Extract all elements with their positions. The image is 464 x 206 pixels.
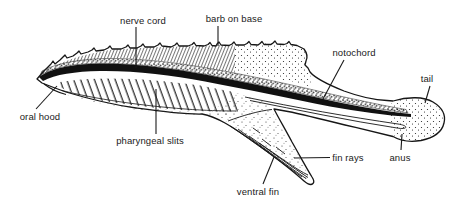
ventral-fin-stipple xyxy=(216,109,309,182)
leader-ventral-fin xyxy=(263,157,274,184)
label-fin-rays: fin rays xyxy=(332,152,364,163)
label-nerve-cord: nerve cord xyxy=(120,15,166,26)
leader-fin-rays xyxy=(294,158,330,159)
leader-oral-hood xyxy=(36,86,57,109)
label-pharyngeal-slits: pharyngeal slits xyxy=(116,135,184,146)
lancelet-diagram-svg: nerve cord barb on base notochord tail o… xyxy=(0,0,464,206)
label-notochord: notochord xyxy=(332,47,375,58)
label-anus: anus xyxy=(389,152,410,163)
label-oral-hood: oral hood xyxy=(20,111,61,122)
label-barb-on-base: barb on base xyxy=(206,13,263,24)
anatomy-diagram-figure: nerve cord barb on base notochord tail o… xyxy=(0,0,464,206)
label-ventral-fin: ventral fin xyxy=(237,186,279,197)
label-tail: tail xyxy=(421,73,434,84)
